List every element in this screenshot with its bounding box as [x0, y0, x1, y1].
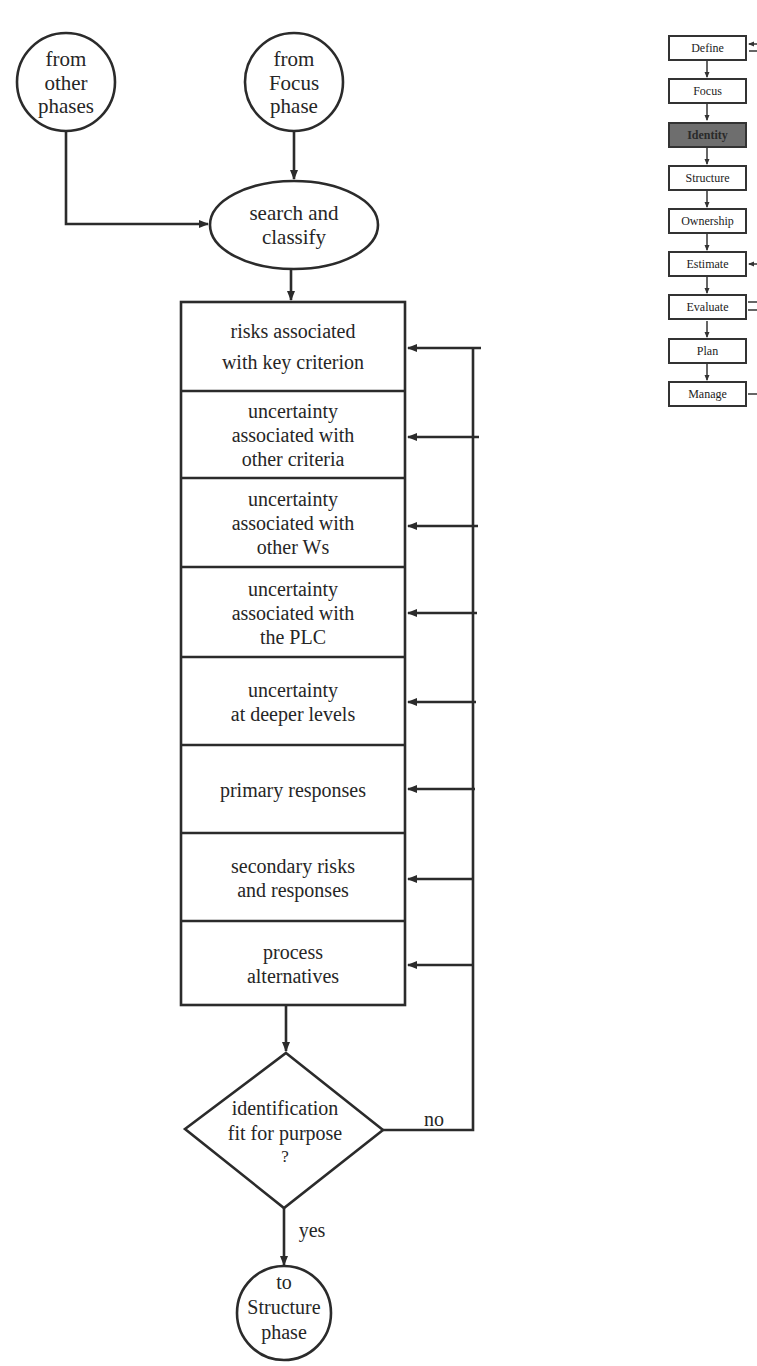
- search-and-classify-node: search and classify: [214, 202, 374, 249]
- step-process-alternatives: processalternatives: [181, 922, 405, 1005]
- phase-manage: Manage: [668, 381, 747, 407]
- phase-structure: Structure: [668, 165, 747, 191]
- phase-evaluate: Evaluate: [668, 294, 747, 320]
- phase-define: Define: [668, 35, 747, 61]
- step-primary-responses: primary responses: [181, 746, 405, 833]
- from-focus-phase-node: from Focus phase: [248, 48, 340, 119]
- phase-estimate: Estimate: [668, 251, 747, 277]
- decision-fit-for-purpose: identification fit for purpose ?: [200, 1096, 370, 1167]
- step-uncertainty-other-ws: uncertaintyassociated withother Ws: [181, 479, 405, 567]
- step-uncertainty-plc: uncertaintyassociated withthe PLC: [181, 568, 405, 657]
- phase-plan: Plan: [668, 338, 747, 364]
- phase-ownership: Ownership: [668, 208, 747, 234]
- step-uncertainty-other-criteria: uncertaintyassociated withother criteria: [181, 392, 405, 478]
- to-structure-phase-node: to Structure phase: [238, 1270, 330, 1345]
- phase-focus: Focus: [668, 78, 747, 104]
- step-uncertainty-deeper-levels: uncertaintyat deeper levels: [181, 658, 405, 745]
- from-other-phases-node: from other phases: [20, 48, 112, 119]
- phase-identity: Identity: [668, 122, 747, 148]
- yes-label: yes: [292, 1219, 332, 1241]
- no-label: no: [414, 1108, 454, 1130]
- step-risks-key-criterion: risks associatedwith key criterion: [181, 303, 405, 391]
- step-secondary-risks: secondary risksand responses: [181, 834, 405, 921]
